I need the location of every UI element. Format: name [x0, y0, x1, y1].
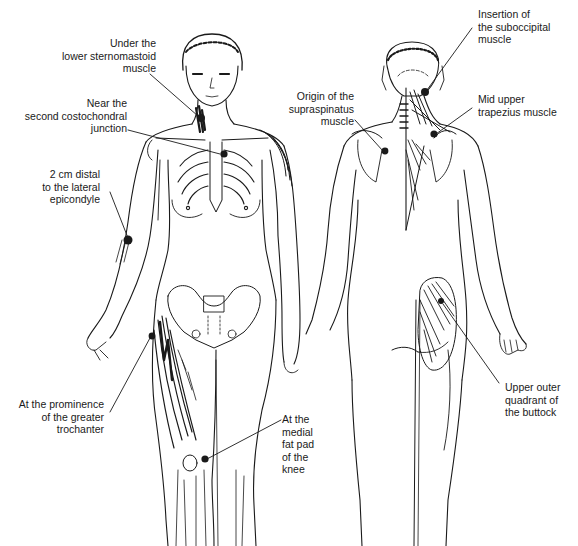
label-sternomastoid: Under the lower sternomastoid muscle [58, 37, 156, 75]
label-line: to the lateral [28, 181, 100, 194]
label-line: lower sternomastoid [58, 50, 156, 63]
label-trapezius: Mid upper trapezius muscle [478, 93, 576, 118]
label-line: trapezius muscle [478, 106, 576, 119]
label-line: trochanter [8, 423, 104, 436]
point-buttock [438, 298, 444, 304]
label-knee: At the medial fat pad of the knee [282, 413, 332, 476]
label-line: fat pad [282, 438, 332, 451]
point-sternomastoid [197, 114, 205, 122]
label-supraspinatus: Origin of the supraspinatus muscle [270, 90, 354, 128]
label-line: Upper outer [505, 381, 577, 394]
label-suboccipital: Insertion of the suboccipital muscle [478, 8, 574, 46]
label-line: the buttock [505, 406, 577, 419]
label-line: 2 cm distal [28, 168, 100, 181]
label-line: At the [282, 413, 332, 426]
label-line: At the prominence [8, 398, 104, 411]
label-line: Under the [58, 37, 156, 50]
point-costochondral [220, 150, 227, 157]
label-line: of the greater [8, 411, 104, 424]
label-line: second costochondral [14, 110, 127, 123]
label-line: muscle [58, 62, 156, 75]
label-line: of the [282, 451, 332, 464]
label-line: Origin of the [270, 90, 354, 103]
label-line: the suboccipital [478, 21, 574, 34]
tender-points-diagram: Under the lower sternomastoid muscle Nea… [0, 0, 578, 546]
label-line: medial [282, 426, 332, 439]
label-line: Insertion of [478, 8, 574, 21]
label-epicondyle: 2 cm distal to the lateral epicondyle [28, 168, 100, 206]
label-line: quadrant of [505, 394, 577, 407]
label-line: knee [282, 463, 332, 476]
label-trochanter: At the prominence of the greater trochan… [8, 398, 104, 436]
label-line: muscle [478, 33, 574, 46]
label-buttock: Upper outer quadrant of the buttock [505, 381, 577, 419]
label-line: Near the [14, 97, 127, 110]
tender-point-markers [124, 88, 445, 463]
label-line: Mid upper [478, 93, 576, 106]
label-costochondral: Near the second costochondral junction [14, 97, 127, 135]
label-line: epicondyle [28, 193, 100, 206]
label-line: supraspinatus [270, 103, 354, 116]
label-line: muscle [270, 115, 354, 128]
label-line: junction [14, 122, 127, 135]
